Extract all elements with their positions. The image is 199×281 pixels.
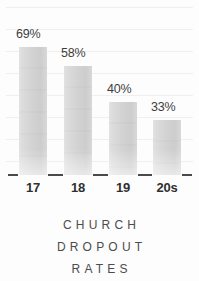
axis-dash (48, 174, 63, 176)
axis-dash (182, 174, 192, 176)
axis-dash (138, 174, 152, 176)
bar-fade (64, 149, 92, 175)
x-axis-label-19: 19 (109, 180, 137, 195)
bar-fade (153, 149, 181, 175)
plot-area: 69% 58% 40% 33% (0, 0, 199, 176)
bar-fade (109, 149, 137, 175)
gridline (6, 7, 193, 8)
bar-value-label: 40% (107, 82, 131, 96)
bar (64, 66, 92, 175)
chart-title-line-3: RATES (0, 258, 199, 280)
axis-dash (8, 174, 18, 176)
x-axis (0, 174, 199, 177)
axis-dash (93, 174, 108, 176)
chart-title-line-1: CHURCH (0, 214, 199, 236)
x-axis-label-20s: 20s (153, 180, 181, 195)
chart-title-line-2: DROPOUT (0, 236, 199, 258)
x-axis-label-18: 18 (64, 180, 92, 195)
bar-value-label: 33% (151, 100, 175, 114)
bar-fade (19, 149, 47, 175)
bar-value-label: 58% (61, 46, 85, 60)
bar (153, 120, 181, 175)
chart-title: CHURCH DROPOUT RATES (0, 214, 199, 280)
bar (19, 47, 47, 175)
bar-value-label: 69% (16, 27, 40, 41)
chart-image: 69% 58% 40% 33% 17 18 19 20s CHURCH DROP… (0, 0, 199, 281)
x-axis-label-17: 17 (19, 180, 47, 195)
bar (109, 102, 137, 175)
